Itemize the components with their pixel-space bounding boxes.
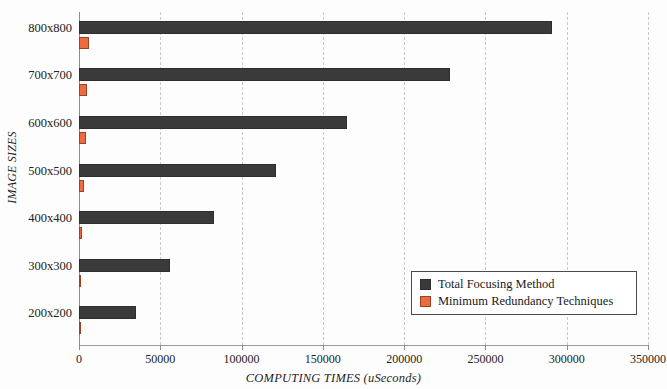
bar-secondary-800x800 [79, 37, 89, 49]
x-tick-label-100000: 100000 [224, 352, 260, 367]
bar-primary-700x700 [79, 68, 450, 81]
legend-swatch-icon-primary [420, 279, 431, 290]
gridline-200000 [404, 12, 405, 345]
x-tick-label-0: 0 [76, 352, 82, 367]
x-tick-label-150000: 150000 [305, 352, 341, 367]
bar-secondary-200x200 [79, 322, 81, 334]
x-axis-title: COMPUTING TIMES (uSeconds) [0, 371, 667, 386]
bar-secondary-300x300 [79, 275, 81, 287]
gridline-150000 [323, 12, 324, 345]
chart-legend: Total Focusing Method Minimum Redundancy… [411, 271, 637, 315]
bar-primary-800x800 [79, 21, 552, 34]
x-tick-label-250000: 250000 [467, 352, 503, 367]
bar-secondary-400x400 [79, 227, 82, 239]
legend-label-secondary: Minimum Redundancy Techniques [438, 294, 613, 309]
x-tick-label-300000: 300000 [549, 352, 585, 367]
legend-item-total-focusing-method: Total Focusing Method [418, 276, 630, 293]
bar-secondary-600x600 [79, 132, 86, 144]
gridline-50000 [160, 12, 161, 345]
y-category-label-700x700: 700x700 [6, 68, 72, 83]
x-axis-line [79, 345, 648, 346]
x-tick-label-350000: 350000 [630, 352, 666, 367]
bar-primary-500x500 [79, 164, 276, 177]
bar-secondary-500x500 [79, 180, 84, 192]
bar-chart: 0500001000001500002000002500003000003500… [0, 0, 667, 389]
bar-primary-400x400 [79, 211, 214, 224]
gridline-0 [79, 12, 80, 345]
bar-primary-300x300 [79, 259, 170, 272]
legend-label-primary: Total Focusing Method [438, 277, 554, 292]
x-tick-350000 [648, 345, 649, 350]
y-axis-title: IMAGE SIZES [5, 118, 20, 218]
gridline-100000 [242, 12, 243, 345]
bar-secondary-700x700 [79, 84, 87, 96]
y-category-label-300x300: 300x300 [6, 259, 72, 274]
bar-primary-600x600 [79, 116, 347, 129]
y-category-label-200x200: 200x200 [6, 306, 72, 321]
legend-item-minimum-redundancy-techniques: Minimum Redundancy Techniques [418, 293, 630, 310]
gridline-350000 [648, 12, 649, 345]
x-tick-label-200000: 200000 [386, 352, 422, 367]
x-tick-label-50000: 50000 [145, 352, 175, 367]
legend-swatch-icon-secondary [420, 296, 431, 307]
y-category-label-800x800: 800x800 [6, 21, 72, 36]
bar-primary-200x200 [79, 306, 136, 319]
